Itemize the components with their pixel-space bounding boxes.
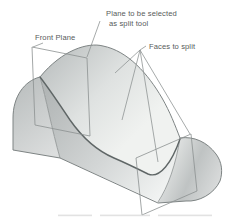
faces-to-split-label: Faces to split [149, 42, 196, 51]
labels: Front Plane Plane to be selected as spli… [35, 9, 196, 51]
front-plane-label: Front Plane [35, 33, 75, 42]
solid-model [13, 45, 222, 203]
cropped-caption-fragment [58, 215, 212, 217]
figure-canvas: Front Plane Plane to be selected as spli… [0, 0, 230, 217]
split-tool-label-line1: Plane to be selected [106, 9, 177, 18]
split-feature-diagram: Front Plane Plane to be selected as spli… [0, 0, 230, 217]
front-plane-leader [33, 43, 43, 47]
split-tool-label-line2: as split tool [109, 19, 149, 28]
